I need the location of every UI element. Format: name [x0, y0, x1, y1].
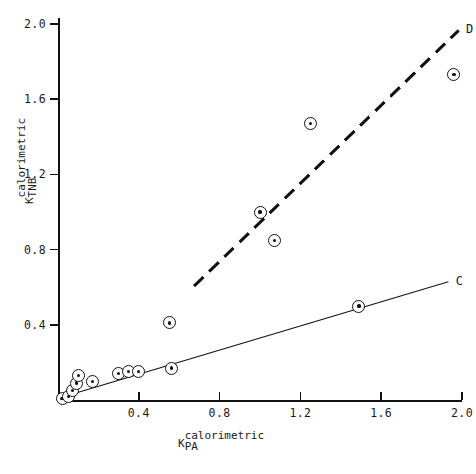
x-tick-label: 1.6: [359, 406, 403, 420]
data-point: [254, 206, 267, 219]
x-tick: [461, 392, 463, 400]
data-point: [165, 362, 178, 375]
x-tick: [380, 392, 382, 400]
x-tick-label: 2.0: [440, 406, 476, 420]
y-tick: [50, 249, 58, 251]
trend-line-c: [64, 282, 448, 398]
x-axis-label-subscript: PA: [185, 441, 264, 452]
y-tick-label: 0.4: [0, 318, 46, 332]
x-tick: [300, 392, 302, 400]
x-axis-label-symbol: K: [178, 437, 185, 450]
data-point: [72, 369, 85, 382]
x-tick-label: 1.2: [278, 406, 322, 420]
data-point: [268, 234, 281, 247]
x-tick: [219, 392, 221, 400]
x-axis-label: KcalorimetricPA: [178, 430, 264, 452]
data-point: [132, 365, 145, 378]
y-axis-line: [58, 18, 60, 402]
x-axis-line: [58, 400, 462, 402]
y-tick-label: 0.8: [0, 243, 46, 257]
y-tick: [50, 174, 58, 176]
x-tick-label: 0.4: [117, 406, 161, 420]
series-label-c: C: [456, 274, 463, 288]
y-tick-label: 2.0: [0, 17, 46, 31]
data-point: [352, 300, 365, 313]
y-tick: [50, 324, 58, 326]
x-tick: [138, 392, 140, 400]
chart-figure: 0.40.81.21.62.0 0.40.81.21.62.0 CD Kcalo…: [0, 0, 476, 474]
y-axis-label-symbol: K: [23, 197, 36, 204]
y-tick: [50, 98, 58, 100]
data-point: [163, 316, 176, 329]
data-point: [447, 68, 460, 81]
data-point: [86, 375, 99, 388]
trend-line-d: [193, 30, 459, 288]
data-point: [304, 117, 317, 130]
x-tick-label: 0.8: [198, 406, 242, 420]
y-axis-label-subscript: TNB: [27, 118, 38, 197]
y-tick: [50, 23, 58, 25]
series-label-d: D: [466, 22, 473, 36]
y-axis-label: KcalorimetricTNB: [16, 96, 38, 226]
